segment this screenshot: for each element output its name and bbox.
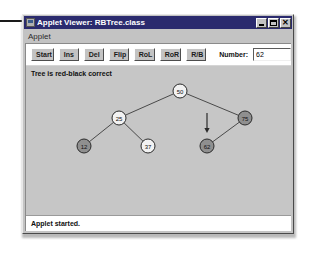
tree-node-label: 37 bbox=[145, 144, 152, 150]
tree-node-label: 25 bbox=[116, 116, 123, 122]
number-input[interactable] bbox=[253, 48, 291, 61]
tree-node[interactable]: 37 bbox=[141, 139, 155, 153]
tree-node-label: 12 bbox=[81, 144, 88, 150]
close-button[interactable]: ✕ bbox=[280, 18, 291, 28]
tree-node[interactable]: 75 bbox=[238, 111, 252, 125]
minimize-icon bbox=[259, 24, 264, 26]
del-button[interactable]: Del bbox=[84, 48, 104, 61]
tree-edge bbox=[125, 94, 173, 115]
tree-node[interactable]: 62 bbox=[200, 139, 214, 153]
applet-icon bbox=[26, 18, 35, 27]
tree-edge bbox=[89, 122, 113, 141]
rb-button[interactable]: R/B bbox=[186, 48, 206, 61]
applet-toolbar: Start Ins Del Flip RoL RoR R/B Number: bbox=[26, 44, 291, 66]
tree-node[interactable]: 25 bbox=[112, 111, 126, 125]
menu-bar: Applet bbox=[24, 30, 292, 42]
minimize-button[interactable] bbox=[256, 18, 267, 28]
tree-node-layer: 502575123762 bbox=[77, 84, 252, 153]
tree-edge bbox=[213, 122, 240, 142]
tree-edge bbox=[124, 123, 143, 141]
tree-node-label: 62 bbox=[204, 144, 211, 150]
ins-button[interactable]: Ins bbox=[59, 48, 79, 61]
tree-node-label: 50 bbox=[177, 89, 184, 95]
close-icon: ✕ bbox=[281, 18, 290, 28]
applet-viewer-window: Applet Viewer: RBTree.class ✕ Applet Sta… bbox=[22, 14, 294, 234]
menu-item-applet[interactable]: Applet bbox=[24, 31, 54, 42]
tree-node[interactable]: 50 bbox=[173, 84, 187, 98]
status-bar: Applet started. bbox=[26, 215, 291, 231]
red-black-tree-graphic: 502575123762 bbox=[26, 66, 291, 186]
ror-button[interactable]: RoR bbox=[160, 48, 182, 61]
pointer-head bbox=[204, 128, 209, 133]
tree-canvas[interactable]: Tree is red-black correct 502575123762 bbox=[26, 66, 291, 215]
rol-button[interactable]: RoL bbox=[134, 48, 155, 61]
tree-node-label: 75 bbox=[242, 116, 249, 122]
title-bar: Applet Viewer: RBTree.class ✕ bbox=[24, 16, 292, 29]
tree-edge bbox=[186, 94, 238, 116]
maximize-icon bbox=[270, 20, 277, 26]
maximize-button[interactable] bbox=[268, 18, 279, 28]
tree-node[interactable]: 12 bbox=[77, 139, 91, 153]
flip-button[interactable]: Flip bbox=[109, 48, 129, 61]
applet-body: Start Ins Del Flip RoL RoR R/B Number: T… bbox=[25, 43, 291, 231]
number-label: Number: bbox=[219, 51, 248, 58]
status-text: Applet started. bbox=[31, 220, 80, 227]
start-button[interactable]: Start bbox=[31, 48, 54, 61]
window-title: Applet Viewer: RBTree.class bbox=[37, 18, 255, 27]
insert-pointer-arrow bbox=[204, 113, 209, 133]
